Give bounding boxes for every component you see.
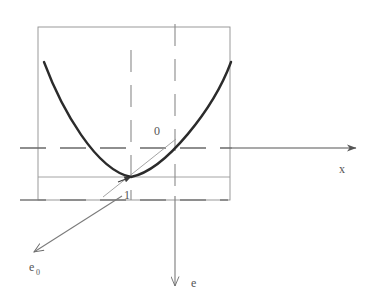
label-e-axis: e: [191, 276, 196, 290]
label-one: 1: [124, 188, 130, 202]
parabola: [44, 62, 231, 177]
e0-axis: [34, 196, 122, 252]
label-e0-axis-subscript: 0: [36, 268, 40, 277]
label-x-axis: x: [339, 162, 345, 176]
label-e0-axis-base: e: [29, 260, 34, 274]
diagram-canvas: 0 1 x e e 0: [0, 0, 369, 303]
label-origin: 0: [154, 124, 160, 138]
geometry-diagram: 0 1 x e e 0: [0, 0, 369, 303]
